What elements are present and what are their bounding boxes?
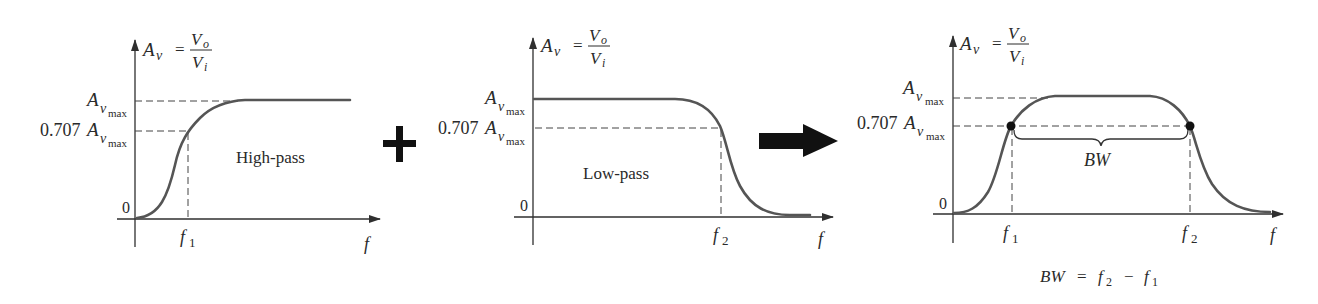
svg-text:=: = xyxy=(992,34,1002,53)
svg-text:A: A xyxy=(483,87,497,108)
y-axis-title: A v = V o V i xyxy=(141,30,212,74)
avmax-label: A v max xyxy=(85,89,127,119)
svg-text:v: v xyxy=(498,99,505,114)
svg-text:1: 1 xyxy=(189,235,196,250)
svg-text:o: o xyxy=(601,33,607,47)
f1-tick-label: f 1 xyxy=(1003,223,1019,246)
low-pass-curve xyxy=(534,99,810,215)
avmax-label: A v max xyxy=(483,87,525,117)
svg-text:2: 2 xyxy=(1106,275,1112,289)
half-power-label: 0.707 A v max xyxy=(40,119,127,149)
svg-text:A: A xyxy=(539,35,553,56)
f2-tick-label: f 2 xyxy=(713,225,729,248)
svg-text:1: 1 xyxy=(1152,275,1158,289)
svg-text:f: f xyxy=(1003,223,1011,243)
svg-text:v: v xyxy=(156,48,163,63)
y-axis-title: A v = V o V i xyxy=(539,26,610,70)
bw-label: BW xyxy=(1084,150,1112,170)
svg-text:A: A xyxy=(483,117,497,138)
svg-text:i: i xyxy=(1021,54,1024,68)
f2-half-power-point xyxy=(1186,122,1195,131)
svg-text:max: max xyxy=(506,105,525,117)
bw-brace xyxy=(1014,130,1188,146)
low-pass-label: Low-pass xyxy=(583,164,649,183)
f1-tick-label: f 1 xyxy=(180,227,196,250)
x-axis-label: f xyxy=(1270,225,1278,245)
svg-text:A: A xyxy=(141,39,155,60)
bw-formula: BW = f 2 − f 1 xyxy=(1040,267,1158,289)
svg-text:v: v xyxy=(100,101,107,116)
svg-text:BW: BW xyxy=(1040,267,1066,286)
f2-tick-label: f 2 xyxy=(1182,223,1198,246)
svg-text:=: = xyxy=(1077,267,1087,286)
svg-text:2: 2 xyxy=(1191,231,1198,246)
filter-response-diagram: A v = V o V i A v max 0.707 A v max 0 Hi… xyxy=(0,0,1318,304)
svg-text:=: = xyxy=(573,36,583,55)
x-axis-label: f xyxy=(364,234,372,254)
svg-text:f: f xyxy=(713,225,721,245)
svg-text:v: v xyxy=(916,89,923,104)
zero-label: 0 xyxy=(939,195,947,212)
svg-text:max: max xyxy=(925,95,944,107)
svg-text:max: max xyxy=(108,137,127,149)
svg-text:A: A xyxy=(85,89,99,110)
svg-text:f: f xyxy=(1144,267,1151,286)
band-pass-panel: A v = V o V i A v max 0.707 A v max 0 xyxy=(857,24,1283,289)
svg-text:1: 1 xyxy=(1012,231,1019,246)
x-axis-label: f xyxy=(818,229,826,249)
svg-text:f: f xyxy=(180,227,188,247)
svg-text:0.707: 0.707 xyxy=(438,118,479,138)
svg-text:A: A xyxy=(901,77,915,98)
result-arrow-icon xyxy=(759,124,838,157)
svg-text:o: o xyxy=(203,37,209,51)
svg-text:v: v xyxy=(554,44,561,59)
avmax-label: A v max xyxy=(901,77,944,107)
svg-text:i: i xyxy=(602,56,605,70)
svg-text:max: max xyxy=(108,107,127,119)
svg-text:A: A xyxy=(902,112,916,133)
svg-text:A: A xyxy=(958,33,972,54)
svg-text:v: v xyxy=(100,131,107,146)
svg-text:v: v xyxy=(973,42,980,57)
zero-label: 0 xyxy=(122,199,130,216)
plus-operator-icon xyxy=(383,126,416,162)
half-power-label: 0.707 A v max xyxy=(857,112,945,142)
svg-text:0.707: 0.707 xyxy=(857,113,898,133)
high-pass-label: High-pass xyxy=(236,148,305,167)
svg-text:f: f xyxy=(1098,267,1105,286)
svg-text:f: f xyxy=(1182,223,1190,243)
svg-text:o: o xyxy=(1020,31,1026,45)
f1-half-power-point xyxy=(1007,122,1016,131)
svg-text:max: max xyxy=(926,130,945,142)
svg-text:=: = xyxy=(175,40,185,59)
svg-text:i: i xyxy=(204,60,207,74)
high-pass-panel: A v = V o V i A v max 0.707 A v max 0 Hi… xyxy=(40,30,380,254)
y-axis-title: A v = V o V i xyxy=(958,24,1029,68)
half-power-label: 0.707 A v max xyxy=(438,117,525,147)
svg-text:2: 2 xyxy=(722,233,729,248)
svg-text:v: v xyxy=(917,124,924,139)
svg-text:−: − xyxy=(1124,267,1134,286)
band-pass-curve xyxy=(954,96,1270,213)
zero-label: 0 xyxy=(520,197,528,214)
svg-text:0.707: 0.707 xyxy=(40,120,81,140)
svg-text:max: max xyxy=(506,135,525,147)
svg-text:v: v xyxy=(498,129,505,144)
svg-text:A: A xyxy=(85,119,99,140)
